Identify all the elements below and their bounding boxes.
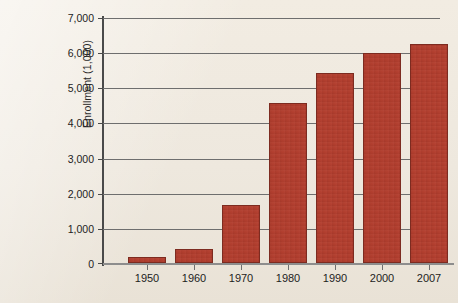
x-tick-label-1980: 1980: [276, 272, 300, 284]
y-tickmark: [98, 229, 103, 230]
y-tick-label: 2,000: [48, 188, 94, 200]
x-tickmark: [241, 265, 242, 270]
x-tick-label-2000: 2000: [370, 272, 394, 284]
x-tickmark: [429, 265, 430, 270]
bar-2000[interactable]: [363, 53, 401, 263]
y-tick-label: 4,000: [48, 117, 94, 129]
y-tick-label: 1,000: [48, 223, 94, 235]
x-tickmark: [194, 265, 195, 270]
bar-1950[interactable]: [128, 257, 166, 263]
y-tickmark: [98, 263, 103, 264]
x-tick-label-2007: 2007: [417, 272, 441, 284]
x-tick-label-1970: 1970: [229, 272, 253, 284]
gridline-7000: [103, 18, 440, 19]
x-tick-label-1960: 1960: [182, 272, 206, 284]
y-tick-label: 5,000: [48, 82, 94, 94]
x-tick-label-1990: 1990: [323, 272, 347, 284]
plot-area: [103, 18, 440, 264]
y-axis-tick-labels: 7,000 6,000 5,000 4,000 3,000 2,000 1,00…: [48, 0, 94, 303]
x-tick-label-1950: 1950: [135, 272, 159, 284]
bar-2007[interactable]: [410, 44, 448, 263]
gridline-baseline-0: [103, 263, 440, 265]
bar-1970[interactable]: [222, 205, 260, 263]
y-tickmark: [98, 159, 103, 160]
bar-1960[interactable]: [175, 249, 213, 263]
x-tickmark: [288, 265, 289, 270]
x-tickmark: [382, 265, 383, 270]
bar-1990[interactable]: [316, 73, 354, 263]
y-tick-label: 7,000: [48, 12, 94, 24]
y-tickmark: [98, 123, 103, 124]
y-tickmark: [98, 194, 103, 195]
y-tickmark: [98, 18, 103, 19]
y-tick-label: 0: [48, 258, 94, 270]
x-tickmark: [147, 265, 148, 270]
y-tick-label: 6,000: [48, 47, 94, 59]
bar-chart: Enrollment (1,000) 7,000 6,000 5,000 4,0…: [0, 0, 458, 303]
y-tickmark: [98, 53, 103, 54]
bar-1980[interactable]: [269, 103, 307, 263]
y-tick-label: 3,000: [48, 153, 94, 165]
x-tickmark: [335, 265, 336, 270]
y-tickmark: [98, 88, 103, 89]
x-axis-extension: [440, 263, 454, 265]
